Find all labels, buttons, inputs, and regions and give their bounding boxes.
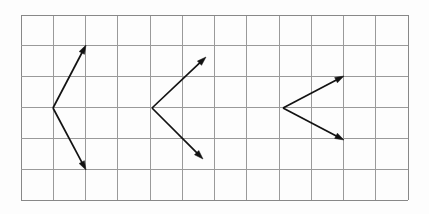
grid-layer — [21, 15, 408, 200]
arrow-down-right-shaft — [53, 108, 83, 164]
arrow-down-right-shaft — [283, 108, 338, 137]
arrow-up-right-shaft — [283, 79, 338, 108]
arrow-up-right-head — [79, 45, 86, 54]
arrow-down-right-head — [79, 161, 86, 170]
arrow-down-right-shaft — [152, 108, 198, 154]
vector-diagram-figure — [0, 0, 429, 214]
arrow-up-right-shaft — [152, 61, 201, 108]
arrow-down-right-head — [335, 133, 344, 140]
arrow-up-right-shaft — [53, 51, 83, 108]
figure-canvas — [0, 0, 429, 214]
